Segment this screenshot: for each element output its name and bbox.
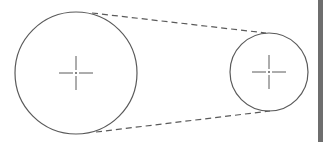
top-belt-line <box>92 13 266 33</box>
right-edge-bar <box>318 0 323 142</box>
center-mark-icon <box>252 55 286 89</box>
small-pulley <box>230 33 308 111</box>
bottom-belt-line <box>96 111 270 132</box>
belt-pulley-diagram <box>0 0 323 142</box>
large-pulley <box>15 12 137 134</box>
center-mark-icon <box>59 56 93 90</box>
